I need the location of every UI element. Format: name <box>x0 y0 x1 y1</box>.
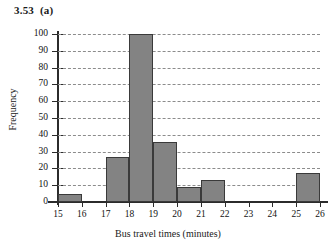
gridline <box>58 152 320 153</box>
y-axis-tick-label: 0 <box>26 197 48 207</box>
plot-area <box>58 34 320 202</box>
y-axis-title: Frequency <box>7 75 18 145</box>
x-axis-tick <box>201 201 202 207</box>
histogram-bar <box>201 180 225 202</box>
y-axis-tick-label: 70 <box>26 79 48 89</box>
histogram-bar <box>153 142 177 202</box>
x-axis-tick <box>296 201 297 207</box>
y-axis-tick-label: 100 <box>26 29 48 39</box>
x-axis-tick <box>129 201 130 207</box>
gridline <box>58 34 320 35</box>
x-axis-tick-label: 18 <box>119 209 139 219</box>
histogram-bar <box>296 173 320 202</box>
x-axis-tick-label: 25 <box>286 209 306 219</box>
y-axis-tick-label: 90 <box>26 46 48 56</box>
y-axis-tick-label: 40 <box>26 130 48 140</box>
histogram-bar <box>177 187 201 202</box>
y-axis-tick-labels: 0102030405060708090100 <box>22 0 48 252</box>
x-axis-tick-label: 26 <box>310 209 330 219</box>
x-axis-tick <box>249 201 250 207</box>
x-axis-tick-label: 19 <box>143 209 163 219</box>
gridline <box>58 101 320 102</box>
x-axis-tick-label: 21 <box>191 209 211 219</box>
y-axis-tick-label: 20 <box>26 163 48 173</box>
x-axis-title: Bus travel times (minutes) <box>0 228 336 239</box>
x-axis-tick <box>225 201 226 207</box>
gridline <box>58 68 320 69</box>
x-axis-tick-label: 15 <box>48 209 68 219</box>
y-axis-tick-label: 30 <box>26 147 48 157</box>
y-axis-tick-label: 80 <box>26 63 48 73</box>
x-axis-tick-label: 22 <box>215 209 235 219</box>
x-axis-tick-label: 16 <box>72 209 92 219</box>
histogram-bar <box>129 34 153 202</box>
x-axis-tick-label: 17 <box>96 209 116 219</box>
x-axis-tick-label: 20 <box>167 209 187 219</box>
x-axis-tick <box>320 201 321 207</box>
gridline <box>58 51 320 52</box>
x-axis-tick <box>153 201 154 207</box>
x-axis-tick <box>58 201 59 207</box>
x-axis-tick <box>106 201 107 207</box>
histogram-bar <box>58 194 82 202</box>
gridline <box>58 168 320 169</box>
gridline <box>58 135 320 136</box>
gridline <box>58 84 320 85</box>
x-axis-tick <box>272 201 273 207</box>
x-axis-tick-label: 24 <box>262 209 282 219</box>
histogram-figure: 3.53 (a) 0102030405060708090100 15161718… <box>0 0 336 252</box>
x-axis-tick-label: 23 <box>239 209 259 219</box>
y-axis-tick-label: 10 <box>26 180 48 190</box>
x-axis-tick <box>82 201 83 207</box>
histogram-bar <box>106 157 130 202</box>
gridline <box>58 118 320 119</box>
x-axis-tick <box>177 201 178 207</box>
y-axis-tick-label: 50 <box>26 113 48 123</box>
y-axis-tick-label: 60 <box>26 96 48 106</box>
gridlines <box>58 34 320 202</box>
